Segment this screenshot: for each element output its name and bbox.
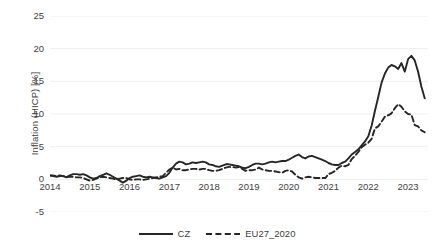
series-line-eu27-2020 [50, 104, 425, 180]
x-axis-tick-label: 2019 [229, 181, 269, 193]
y-axis-tick-label: 25 [10, 11, 44, 21]
x-axis-tick-label: 2015 [70, 181, 110, 193]
legend-swatch-solid [139, 230, 173, 238]
legend-swatch-dashed [206, 230, 240, 238]
series-line-cz [50, 56, 425, 183]
legend-item[interactable]: CZ [139, 228, 191, 239]
x-axis-tick-label: 2016 [110, 181, 150, 193]
chart-legend: CZEU27_2020 [0, 228, 434, 239]
legend-label: CZ [178, 228, 191, 239]
x-axis-tick-label: 2023 [388, 181, 428, 193]
y-axis-tick-label: -5 [10, 207, 44, 217]
y-axis-tick-label: 15 [10, 76, 44, 86]
inflation-line-chart: Inflation (HICP) [%] 2520151050-5 201420… [0, 0, 434, 251]
x-axis-tick-label: 2021 [309, 181, 349, 193]
legend-label: EU27_2020 [245, 228, 295, 239]
y-axis-tick-labels: 2520151050-5 [8, 0, 44, 251]
legend-item[interactable]: EU27_2020 [206, 228, 295, 239]
y-axis-tick-label: 20 [10, 44, 44, 54]
x-axis-tick-label: 2017 [149, 181, 189, 193]
x-axis-tick-label: 2022 [348, 181, 388, 193]
x-axis-tick-label: 2018 [189, 181, 229, 193]
y-axis-tick-label: 10 [10, 109, 44, 119]
x-axis-tick-label: 2020 [269, 181, 309, 193]
x-axis-tick-labels: 2014201520162017201820192020202120222023 [50, 181, 428, 195]
y-axis-tick-label: 5 [10, 142, 44, 152]
x-axis-tick-label: 2014 [30, 181, 70, 193]
